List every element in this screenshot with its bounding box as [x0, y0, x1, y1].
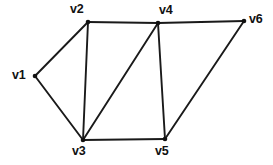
graph-edge-v1-v3 — [35, 76, 83, 140]
graph-edge-v3-v4 — [83, 23, 158, 140]
vertex-label-v4: v4 — [159, 4, 173, 17]
vertex-label-v6: v6 — [249, 13, 263, 26]
graph-vertex-v6 — [242, 19, 247, 24]
graph-vertex-v1 — [33, 74, 38, 79]
vertex-label-v5: v5 — [155, 145, 169, 158]
graph-edge-v3-v5 — [83, 139, 165, 140]
graph-edge-v2-v4 — [88, 22, 158, 23]
graph-vertex-v5 — [163, 137, 168, 142]
graph-canvas — [0, 0, 273, 165]
vertex-label-v3: v3 — [72, 145, 86, 158]
graph-figure: v1v2v3v4v5v6 — [0, 0, 273, 165]
edges-group — [35, 21, 244, 140]
graph-vertex-v4 — [156, 21, 161, 26]
graph-edge-v1-v2 — [35, 22, 88, 76]
graph-edge-v4-v5 — [158, 23, 165, 139]
graph-edge-v4-v6 — [158, 21, 244, 23]
graph-edge-v2-v3 — [83, 22, 88, 140]
graph-edge-v5-v6 — [165, 21, 244, 139]
vertex-label-v2: v2 — [70, 3, 84, 16]
graph-vertex-v3 — [81, 138, 86, 143]
vertices-group — [33, 19, 247, 143]
vertex-label-v1: v1 — [12, 69, 26, 82]
graph-vertex-v2 — [86, 20, 91, 25]
